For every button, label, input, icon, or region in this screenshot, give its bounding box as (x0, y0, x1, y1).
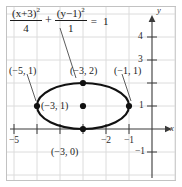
y-tick-label-4: 4 (138, 32, 143, 42)
equation-fraction-1: (x+3)2 4 (10, 7, 42, 34)
ellipse-equation: (x+3)2 4 + (y−1)2 1 = 1 (9, 7, 112, 34)
point-center (80, 103, 86, 109)
point-bottom-vertex (80, 126, 86, 132)
equation-right-side: 1 (103, 15, 109, 27)
point-label-left: (−5, 1) (9, 66, 36, 76)
equation-numerator-2: (y−1)2 (55, 7, 87, 20)
equation-numerator-1-text: (x+3) (12, 7, 37, 19)
x-axis-label: x (170, 124, 174, 133)
equation-equals-sign: = (91, 15, 97, 27)
x-tick-label-neg1: −1 (124, 136, 134, 146)
equation-exponent-1: 2 (37, 6, 41, 14)
y-tick-label-3: 3 (138, 55, 143, 65)
point-right-vertex (126, 103, 132, 109)
ellipse-figure: (x+3)2 4 + (y−1)2 1 = 1 y x 4 3 1 −1 −5 … (0, 0, 182, 187)
y-tick-label-neg1: −1 (135, 147, 145, 157)
equation-denominator-1: 4 (23, 21, 29, 34)
equation-numerator-1: (x+3)2 (10, 7, 42, 20)
point-label-center: (−3, 1) (41, 101, 68, 111)
equation-numerator-2-text: (y−1) (57, 7, 82, 19)
point-label-bottom: (−3, 0) (51, 147, 78, 157)
equation-exponent-2: 2 (81, 6, 85, 14)
x-tick-label-neg5: −5 (9, 136, 19, 146)
point-label-top: (−3, 2) (70, 66, 97, 76)
y-tick-label-1: 1 (139, 101, 144, 111)
x-tick-label-neg2: −2 (101, 136, 111, 146)
equation-denominator-2: 1 (68, 21, 74, 34)
point-left-vertex (34, 103, 40, 109)
equation-fraction-2: (y−1)2 1 (55, 7, 87, 34)
y-axis-label: y (157, 6, 161, 15)
equation-plus-operator: + (45, 13, 52, 28)
point-top-vertex (80, 80, 86, 86)
point-label-right: (−1, 1) (114, 66, 141, 76)
